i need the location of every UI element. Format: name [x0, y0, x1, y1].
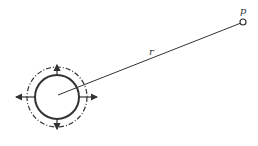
diagram-svg: p r: [0, 0, 258, 146]
distance-line: [58, 23, 241, 95]
distance-label: r: [149, 46, 155, 57]
point-label: p: [240, 5, 247, 16]
diagram-canvas: p r: [0, 0, 258, 146]
observation-point: [240, 19, 246, 25]
source-sphere: [35, 75, 79, 119]
